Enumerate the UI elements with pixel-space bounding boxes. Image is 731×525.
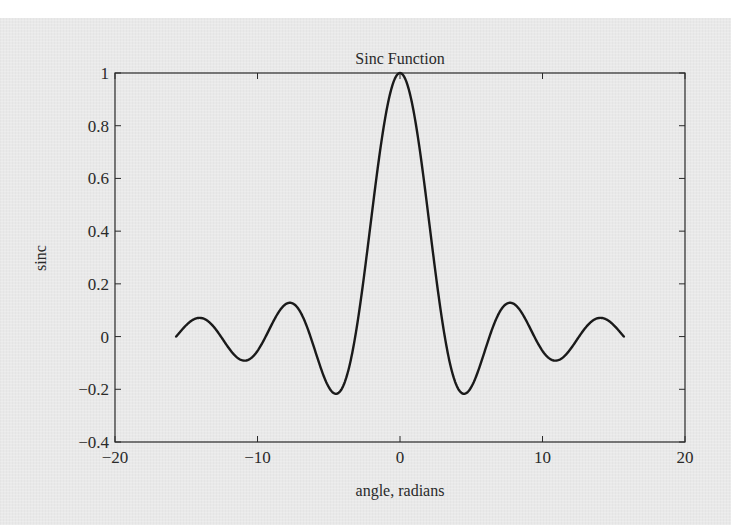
y-axis-label: sinc: [32, 245, 49, 271]
x-tick-label: 20: [677, 448, 694, 467]
axes-frame: [115, 73, 685, 442]
plot-area: −20−1001020 −0.4−0.200.20.40.60.81: [78, 64, 693, 467]
sinc-series-line: [176, 73, 624, 394]
x-tick-label: 10: [534, 448, 551, 467]
y-tick-label: 0.4: [88, 222, 110, 241]
sinc-chart: Sinc Function −20−1001020 −0.4−0.200.20.…: [0, 0, 731, 525]
x-tick-label: 0: [396, 448, 405, 467]
x-tick-label: −10: [244, 448, 271, 467]
y-ticks: −0.4−0.200.20.40.60.81: [78, 64, 685, 452]
y-tick-label: 1: [101, 64, 110, 83]
x-axis-label: angle, radians: [356, 482, 445, 500]
y-tick-label: 0.2: [88, 275, 109, 294]
y-tick-label: 0: [101, 328, 110, 347]
y-tick-label: 0.8: [88, 117, 109, 136]
y-tick-label: 0.6: [88, 169, 109, 188]
y-tick-label: −0.4: [78, 433, 109, 452]
x-ticks: −20−1001020: [102, 73, 694, 467]
chart-title: Sinc Function: [355, 50, 444, 67]
y-tick-label: −0.2: [78, 380, 109, 399]
